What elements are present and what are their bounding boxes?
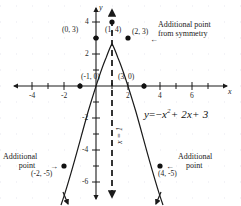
right-note-line1: Additional [178, 152, 212, 161]
label-x-intercept-right: (3, 0) [118, 73, 134, 81]
right-note-arrow-icon: ← [166, 163, 174, 171]
left-note-arrow-icon: → [50, 163, 58, 171]
label-symmetry-point: (2, 3) [132, 28, 148, 36]
y-tick-label--2: -2 [82, 114, 88, 122]
point-x-intercept-left [77, 83, 82, 88]
equation-label: y=−x2+ 2x+ 3 [144, 108, 208, 120]
point-additional-right [157, 163, 162, 168]
x-tick-label--4: -4 [29, 92, 35, 100]
axis-of-symmetry-label: x = 1 [116, 127, 124, 144]
x-tick-label-2: 2 [126, 92, 130, 100]
symmetry-note-line2: from symmetry [158, 29, 211, 38]
left-note-line1: Additional [3, 152, 37, 161]
x-tick-label-6: 6 [190, 92, 194, 100]
left-note-line2: point [3, 161, 37, 170]
right-note: Additional point [178, 152, 212, 170]
point-y-intercept [93, 35, 98, 40]
point-x-intercept-right [141, 83, 146, 88]
equation-term2: + 2x [171, 108, 192, 120]
y-axis-label: y [99, 4, 103, 12]
right-note-line2: point [178, 161, 212, 170]
equation-term3: + 3 [192, 108, 208, 120]
label-vertex: (1, 4) [105, 26, 121, 34]
y-tick-label--4: -4 [82, 146, 88, 154]
parabola-figure: -4 -2 2 4 6 4 2 -2 -4 -6 y x (0, 3) (1, … [0, 0, 241, 206]
y-tick-label-4: 4 [85, 18, 89, 26]
symmetry-note-line1: Additional point [158, 20, 211, 29]
point-vertex [109, 19, 114, 24]
label-y-intercept: (0, 3) [62, 26, 78, 34]
label-x-intercept-left: (-1, 0) [81, 73, 100, 81]
x-tick-label-4: 4 [158, 92, 162, 100]
x-tick-label--2: -2 [61, 92, 67, 100]
y-tick-label-2: 2 [85, 50, 89, 58]
point-symmetry [125, 35, 130, 40]
point-additional-left [61, 163, 66, 168]
y-tick-label--6: -6 [82, 178, 88, 186]
symmetry-note-arrow-icon: ← [150, 36, 158, 44]
x-axis-label: x [228, 88, 232, 96]
left-note: Additional point [3, 152, 37, 170]
label-additional-left: (-2, -5) [31, 170, 52, 178]
label-additional-right: (4, -5) [158, 170, 177, 178]
symmetry-note: Additional point from symmetry [158, 20, 211, 38]
